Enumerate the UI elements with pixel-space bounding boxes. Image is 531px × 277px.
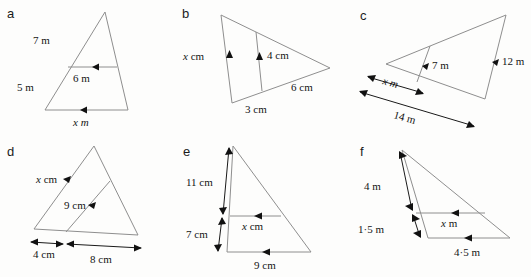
panel-f: f 4 m 1·5 m x m 4·5 m — [350, 138, 531, 277]
panel-d-letter: d — [7, 144, 14, 159]
arrow-tick-icon-e-base — [262, 249, 270, 256]
panel-d: d x cm 9 cm 4 cm 8 cm — [0, 138, 178, 277]
triangle-outline-e — [227, 146, 311, 252]
panel-d-figure: x cm 9 cm 4 cm 8 cm — [0, 138, 178, 277]
arrow-head-icon-f-15-bottom — [413, 230, 421, 238]
panel-a-letter: a — [7, 6, 14, 21]
arrow-head-icon-d-8-right — [134, 245, 142, 252]
label-b-4cm: 4 cm — [267, 49, 289, 61]
dimension-line-c-14 — [360, 92, 474, 126]
panel-b: b x cm 4 cm 3 cm 6 cm — [178, 0, 350, 138]
arrow-head-icon-f-15-top — [412, 214, 420, 222]
dimension-line-e-11 — [223, 148, 229, 214]
panel-b-figure: x cm 4 cm 3 cm 6 cm — [178, 0, 350, 138]
arrow-head-icon-d-4-left — [30, 239, 38, 246]
label-f-xm: x m — [440, 217, 458, 229]
arrow-tick-icon-b-mid — [256, 52, 263, 60]
arrow-tick-icon-e-mid — [254, 213, 262, 220]
label-b-3cm: 3 cm — [245, 103, 267, 115]
arrow-head-icon-e-7-bottom — [214, 244, 222, 252]
panel-a: a 7 m 5 m 6 m x m — [0, 0, 178, 138]
label-a-6m: 6 m — [73, 72, 90, 84]
arrow-tick-icon-a-mid — [92, 64, 99, 71]
arrow-tick-icon-b-left — [226, 50, 233, 58]
arrow-head-icon-d-4-right — [56, 241, 64, 248]
panel-c-figure: 7 m 12 m x m 14 m — [350, 0, 531, 138]
arrow-head-icon-d-8-left — [66, 241, 74, 248]
panel-f-letter: f — [360, 144, 364, 159]
panel-c-letter: c — [360, 8, 367, 23]
label-e-11cm: 11 cm — [186, 176, 213, 188]
arrow-head-icon-f-4-bottom — [405, 203, 413, 211]
triangle-outline-c — [386, 15, 506, 99]
label-a-7m: 7 m — [33, 34, 50, 46]
label-e-9cm: 9 cm — [254, 259, 276, 271]
geometry-worksheet-figure: a 7 m 5 m 6 m x m b x cm — [0, 0, 531, 277]
panel-b-letter: b — [182, 6, 189, 21]
arrow-tick-icon-a-base — [80, 107, 87, 114]
internal-parallel-line-b — [256, 32, 262, 91]
label-b-6cm: 6 cm — [291, 81, 313, 93]
panel-a-figure: 7 m 5 m 6 m x m — [0, 0, 178, 138]
label-d-9cm: 9 cm — [64, 199, 86, 211]
label-f-4-5m: 4·5 m — [454, 246, 480, 258]
arrow-tick-icon-d-mid — [88, 202, 96, 209]
panel-f-figure: 4 m 1·5 m x m 4·5 m — [350, 138, 531, 277]
panel-c: c 7 m 12 m x m 14 m — [350, 0, 531, 138]
label-b-xcm: x cm — [182, 50, 205, 62]
arrow-head-icon-e-11-top — [225, 147, 233, 155]
label-d-4cm: 4 cm — [33, 248, 55, 260]
triangle-outline-d — [34, 146, 138, 235]
dimension-line-f-4 — [400, 152, 412, 210]
panel-e: e 11 cm 7 cm x cm 9 cm — [178, 138, 350, 277]
label-c-12m: 12 m — [502, 55, 525, 67]
arrow-head-icon-e-11-bottom — [219, 207, 227, 215]
arrow-head-icon-e-7-top — [218, 217, 226, 225]
label-e-xcm: x cm — [241, 220, 264, 232]
label-a-xm: x m — [72, 116, 89, 128]
arrow-tick-icon-f-mid — [451, 210, 459, 217]
panel-e-figure: 11 cm 7 cm x cm 9 cm — [178, 138, 350, 277]
label-c-14m: 14 m — [392, 108, 417, 126]
dimension-line-d-8 — [67, 244, 141, 248]
label-c-7m: 7 m — [432, 59, 449, 71]
arrow-tick-icon-d-left — [63, 176, 71, 183]
arrow-tick-icon-f-base — [464, 235, 472, 242]
label-c-xm: x m — [380, 74, 399, 90]
label-e-7cm: 7 cm — [186, 228, 208, 240]
label-d-8cm: 8 cm — [90, 253, 112, 265]
label-f-1-5m: 1·5 m — [358, 223, 384, 235]
panel-e-letter: e — [183, 144, 190, 159]
label-a-5m: 5 m — [17, 81, 34, 93]
label-d-xcm: x cm — [35, 173, 58, 185]
label-f-4m: 4 m — [364, 180, 381, 192]
triangle-outline-a — [45, 12, 128, 110]
